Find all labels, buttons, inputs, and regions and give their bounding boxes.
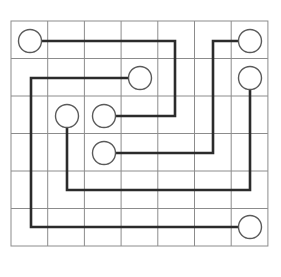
endpoint-node-c2[interactable] [239, 216, 262, 239]
endpoint-node-a2[interactable] [93, 105, 116, 128]
grid-path-puzzle-diagram [0, 0, 281, 277]
connection-path-b [104, 41, 250, 153]
grid-lines-layer [11, 21, 268, 246]
endpoint-node-e1[interactable] [56, 105, 79, 128]
endpoint-node-d1[interactable] [239, 67, 262, 90]
endpoint-node-b1[interactable] [239, 30, 262, 53]
endpoint-node-b2[interactable] [93, 142, 116, 165]
endpoint-node-c1[interactable] [129, 67, 152, 90]
puzzle-canvas [0, 0, 281, 277]
endpoint-node-a1[interactable] [19, 30, 42, 53]
